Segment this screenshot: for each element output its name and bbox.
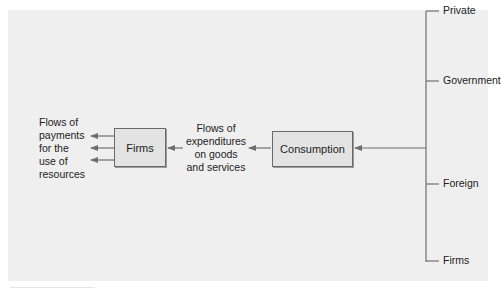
expenditures-flow-label: Flows of expenditures on goods and servi… — [184, 122, 248, 174]
firms-box-label: Firms — [126, 142, 154, 154]
consumption-box-label: Consumption — [280, 143, 345, 155]
firms-box: Firms — [114, 128, 166, 167]
source-private-label: Private — [443, 4, 476, 17]
consumption-box: Consumption — [272, 131, 353, 167]
source-foreign-label: Foreign — [443, 177, 479, 190]
payments-flow-label: Flows of payments for the use of resourc… — [39, 116, 85, 181]
source-government-label: Government — [443, 74, 501, 87]
source-firms-label: Firms — [443, 254, 469, 267]
